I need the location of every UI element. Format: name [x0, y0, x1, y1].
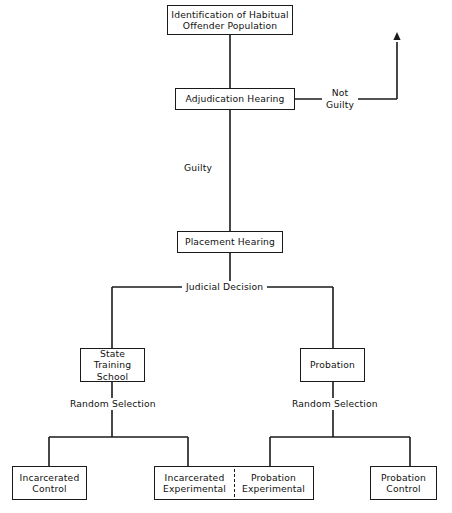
node-incarcerated-experimental[interactable]: Incarcerated Experimental [154, 466, 234, 500]
node-probation[interactable]: Probation [300, 348, 365, 382]
edge-label-judicial-decision: Judicial Decision [182, 281, 267, 293]
edge-label-not-guilty: Not Guilty [322, 87, 358, 110]
flowchart-diagram: Identification of Habitual Offender Popu… [0, 0, 452, 513]
node-probation-control[interactable]: Probation Control [370, 466, 437, 500]
node-adjudication-hearing[interactable]: Adjudication Hearing [175, 88, 295, 110]
node-placement-hearing[interactable]: Placement Hearing [177, 231, 283, 253]
connector-layer [0, 0, 452, 513]
node-probation-label: Probation [307, 359, 358, 371]
edge-label-random-selection-left: Random Selection [66, 398, 160, 410]
node-probation-experimental[interactable]: Probation Experimental [234, 466, 314, 500]
edge-label-guilty: Guilty [180, 162, 216, 174]
node-incarcerated-control[interactable]: Incarcerated Control [12, 466, 87, 500]
edge-label-random-selection-right: Random Selection [288, 398, 382, 410]
experimental-group-divider [234, 469, 235, 497]
node-probation-experimental-label: Probation Experimental [239, 472, 308, 495]
node-incarcerated-experimental-label: Incarcerated Experimental [160, 472, 229, 495]
node-incarcerated-control-label: Incarcerated Control [17, 472, 83, 495]
node-state-training-school[interactable]: State Training School [80, 348, 145, 382]
arrowhead-not-guilty-exit-arrow [393, 32, 400, 40]
node-probation-control-label: Probation Control [378, 472, 429, 495]
node-identification-label: Identification of Habitual Offender Popu… [168, 9, 291, 32]
node-adjudication-hearing-label: Adjudication Hearing [182, 93, 287, 105]
node-identification[interactable]: Identification of Habitual Offender Popu… [167, 5, 293, 35]
node-placement-hearing-label: Placement Hearing [182, 236, 278, 248]
node-state-training-school-label: State Training School [81, 348, 144, 383]
